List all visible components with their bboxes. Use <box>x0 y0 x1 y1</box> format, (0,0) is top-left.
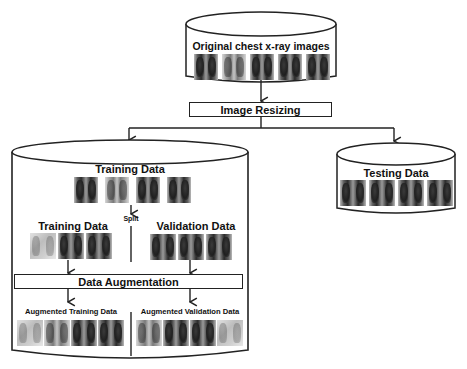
xray-thumbnail <box>17 320 43 346</box>
testing-thumbnails <box>340 180 453 206</box>
training-data-label: Training Data <box>60 163 200 175</box>
xray-thumbnail <box>206 234 232 260</box>
xray-thumbnail <box>427 180 453 206</box>
xray-thumbnail <box>398 180 424 206</box>
validation-subset-label: Validation Data <box>146 220 246 232</box>
data-augmentation-box: Data Augmentation <box>14 274 243 289</box>
xray-thumbnail <box>86 233 112 259</box>
xray-thumbnail <box>71 320 97 346</box>
xray-thumbnail <box>167 177 191 203</box>
xray-thumbnail <box>178 234 204 260</box>
xray-thumbnail <box>190 320 216 346</box>
validation-subset-thumbnails <box>150 234 232 260</box>
train-subset-thumbnails <box>30 233 112 259</box>
xray-thumbnail <box>150 234 176 260</box>
xray-thumbnail <box>369 180 395 206</box>
source-thumbnails <box>194 54 330 80</box>
xray-thumbnail <box>250 54 274 80</box>
xray-thumbnail <box>136 320 162 346</box>
branch-connector <box>129 116 394 141</box>
xray-thumbnail <box>98 320 124 346</box>
xray-thumbnail <box>340 180 366 206</box>
xray-thumbnail <box>222 54 246 80</box>
train-subset-label: Training Data <box>28 220 118 232</box>
xray-thumbnail <box>306 54 330 80</box>
source-label: Original chest x-ray images <box>186 40 336 52</box>
xray-thumbnail <box>74 177 98 203</box>
testing-data-label: Testing Data <box>337 167 455 179</box>
xray-thumbnail <box>44 320 70 346</box>
training-thumbnails <box>74 177 191 203</box>
xray-thumbnail <box>163 320 189 346</box>
augmented-validation-label: Augmented Validation Data <box>133 307 247 316</box>
xray-thumbnail <box>136 177 160 203</box>
augmented-train-label: Augmented Training Data <box>14 307 128 316</box>
xray-thumbnail <box>194 54 218 80</box>
xray-thumbnail <box>105 177 129 203</box>
xray-thumbnail <box>217 320 243 346</box>
split-label: Split <box>118 215 144 222</box>
xray-thumbnail <box>58 233 84 259</box>
image-resizing-box: Image Resizing <box>189 102 332 117</box>
xray-thumbnail <box>278 54 302 80</box>
xray-thumbnail <box>30 233 56 259</box>
augmented-train-thumbnails <box>17 320 124 346</box>
augmented-validation-thumbnails <box>136 320 243 346</box>
